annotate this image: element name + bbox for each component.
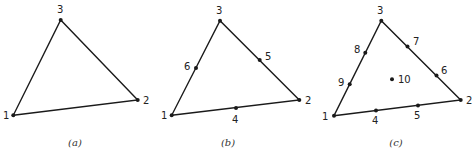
- node-10-point: [390, 77, 394, 81]
- node-label: 4: [232, 114, 238, 125]
- node-3-point: [379, 19, 383, 23]
- node-label: 3: [216, 5, 222, 16]
- panel-c: 12345678910(c): [322, 5, 472, 148]
- triangle-elements-figure: 123(a)123456(b)12345678910(c): [0, 0, 476, 155]
- node-7-point: [406, 45, 410, 49]
- node-1-point: [11, 113, 15, 117]
- node-6-point: [194, 66, 198, 70]
- node-5-point: [258, 58, 262, 62]
- node-label: 10: [398, 74, 411, 85]
- node-4-point: [234, 106, 238, 110]
- node-2-point: [297, 98, 301, 102]
- node-3-point: [218, 19, 222, 23]
- node-4-point: [374, 109, 378, 113]
- panel-caption: (b): [221, 137, 235, 148]
- node-label: 1: [3, 110, 9, 121]
- node-label: 6: [441, 65, 447, 76]
- node-label: 4: [372, 115, 378, 126]
- node-1-point: [170, 113, 174, 117]
- node-6-point: [435, 74, 439, 78]
- triangle-element: [13, 20, 137, 115]
- node-label: 3: [57, 4, 63, 15]
- node-2-point: [459, 98, 463, 102]
- node-label: 2: [466, 95, 472, 106]
- node-label: 5: [265, 51, 271, 62]
- node-label: 3: [377, 5, 383, 16]
- node-label: 9: [338, 77, 344, 88]
- node-label: 1: [322, 111, 328, 122]
- node-label: 5: [414, 110, 420, 121]
- node-9-point: [348, 82, 352, 86]
- node-1-point: [332, 114, 336, 118]
- node-label: 2: [305, 95, 311, 106]
- node-label: 6: [184, 61, 190, 72]
- node-5-point: [416, 104, 420, 108]
- panel-a: 123(a): [3, 4, 149, 148]
- panel-caption: (c): [389, 137, 403, 148]
- node-3-point: [59, 18, 63, 22]
- panel-b: 123456(b): [161, 5, 311, 148]
- node-label: 8: [354, 44, 360, 55]
- node-label: 1: [161, 110, 167, 121]
- node-2-point: [136, 98, 140, 102]
- panel-caption: (a): [68, 137, 82, 148]
- node-label: 7: [413, 36, 419, 47]
- node-8-point: [363, 51, 367, 55]
- node-label: 2: [143, 95, 149, 106]
- triangle-element: [172, 21, 300, 116]
